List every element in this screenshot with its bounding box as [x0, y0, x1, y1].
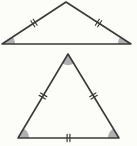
diagram-canvas	[0, 0, 137, 146]
triangle-outline	[18, 54, 119, 138]
congruent-triangles-diagram	[0, 0, 137, 146]
top-triangle	[2, 2, 131, 44]
triangle-outline	[2, 2, 131, 44]
bottom-triangle	[18, 54, 119, 142]
